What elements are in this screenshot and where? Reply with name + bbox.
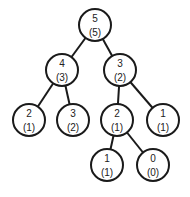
tree-diagram: 5(5)4(3)3(2)2(1)3(2)2(1)1(1)1(1)0(0): [0, 0, 190, 197]
node-value: 2: [26, 108, 32, 119]
tree-node: 2(1): [101, 104, 133, 136]
tree-node: 1(1): [147, 104, 179, 136]
node-subvalue: (5): [89, 27, 101, 38]
node-subvalue: (0): [147, 167, 159, 178]
node-value: 1: [160, 108, 166, 119]
node-subvalue: (2): [114, 72, 126, 83]
node-subvalue: (1): [111, 122, 123, 133]
tree-node: 1(1): [91, 149, 123, 181]
tree-node: 3(2): [57, 104, 89, 136]
tree-node: 5(5): [79, 9, 111, 41]
node-value: 5: [92, 13, 98, 24]
tree-node: 3(2): [104, 54, 136, 86]
tree-node: 4(3): [46, 54, 78, 86]
tree-node: 0(0): [137, 149, 169, 181]
node-value: 3: [117, 58, 123, 69]
tree-nodes: 5(5)4(3)3(2)2(1)3(2)2(1)1(1)1(1)0(0): [13, 9, 179, 181]
node-value: 2: [114, 108, 120, 119]
node-subvalue: (1): [157, 122, 169, 133]
node-value: 1: [104, 153, 110, 164]
node-subvalue: (2): [67, 122, 79, 133]
tree-edges: [29, 25, 163, 165]
node-subvalue: (3): [56, 72, 68, 83]
node-subvalue: (1): [101, 167, 113, 178]
node-subvalue: (1): [23, 122, 35, 133]
node-value: 0: [150, 153, 156, 164]
node-value: 3: [70, 108, 76, 119]
node-value: 4: [59, 58, 65, 69]
tree-node: 2(1): [13, 104, 45, 136]
